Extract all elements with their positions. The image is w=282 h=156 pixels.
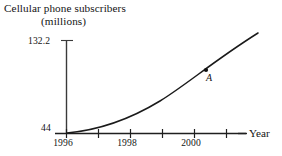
x-axis-label-1998: 1998 — [111, 137, 143, 148]
x-axis-title: Year — [249, 127, 270, 140]
point-a-label: A — [206, 72, 212, 83]
x-axis-label-1996: 1996 — [47, 137, 79, 148]
subscribers-curve — [67, 33, 258, 133]
cellular-subscribers-figure: Cellular phone subscribers (millions) 13… — [0, 0, 282, 156]
chart-plot-area — [0, 0, 282, 156]
x-axis-label-2000: 2000 — [175, 137, 207, 148]
